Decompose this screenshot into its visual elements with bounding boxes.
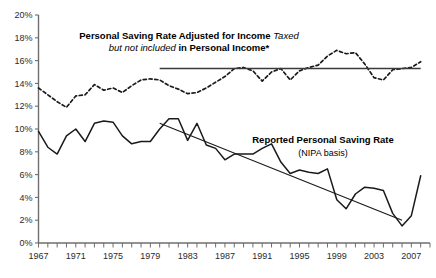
y-axis-tick-label: 18% (14, 33, 32, 43)
x-axis-tick-label: 1991 (252, 251, 272, 261)
adjusted-series-annotation: Personal Saving Rate Adjusted for Income… (64, 30, 314, 54)
y-axis-tick-label: 8% (19, 147, 32, 157)
y-axis-tick-label: 0% (19, 238, 32, 248)
adjusted-annotation-line1-bold: Personal Saving Rate Adjusted for Income (79, 30, 273, 41)
adjusted-annotation-line2-italic: but not included (109, 42, 176, 53)
saving-rate-chart: 20%18%16%14%12%10%8%6%4%2%0% 19671971197… (0, 0, 436, 278)
reported-annotation-subtitle: (NIPA basis) (248, 147, 398, 159)
x-axis-tick-label: 2007 (401, 251, 421, 261)
y-axis-tick-label: 2% (19, 215, 32, 225)
reported-annotation-title: Reported Personal Saving Rate (252, 134, 393, 145)
y-axis-tick-label: 14% (14, 79, 32, 89)
adjusted-annotation-line2-bold: in Personal Income* (176, 42, 269, 53)
x-axis-tick-label: 1987 (215, 251, 235, 261)
x-axis-tick-label: 1979 (140, 251, 160, 261)
x-axis: 1967197119751979198319871991199519992003… (28, 243, 430, 261)
x-axis-tick-label: 1983 (178, 251, 198, 261)
y-axis-tick-label: 16% (14, 56, 32, 66)
x-axis-tick-label: 1975 (103, 251, 123, 261)
y-axis-tick-label: 12% (14, 101, 32, 111)
y-axis-tick-label: 20% (14, 10, 32, 20)
x-axis-tick-label: 1999 (327, 251, 347, 261)
x-axis-tick-label: 1995 (289, 251, 309, 261)
y-axis-tick-label: 10% (14, 124, 32, 134)
x-axis-tick-label: 1967 (28, 251, 48, 261)
y-axis-tick-label: 6% (19, 170, 32, 180)
y-axis: 20%18%16%14%12%10%8%6%4%2%0% (14, 10, 38, 248)
x-axis-tick-label: 1971 (66, 251, 86, 261)
x-axis-tick-label: 2003 (364, 251, 384, 261)
adjusted-annotation-line1-italic: Taxed (273, 30, 299, 41)
reported-series-annotation: Reported Personal Saving Rate (NIPA basi… (248, 134, 398, 159)
y-axis-tick-label: 4% (19, 193, 32, 203)
series-adjusted-saving-rate (39, 50, 421, 107)
